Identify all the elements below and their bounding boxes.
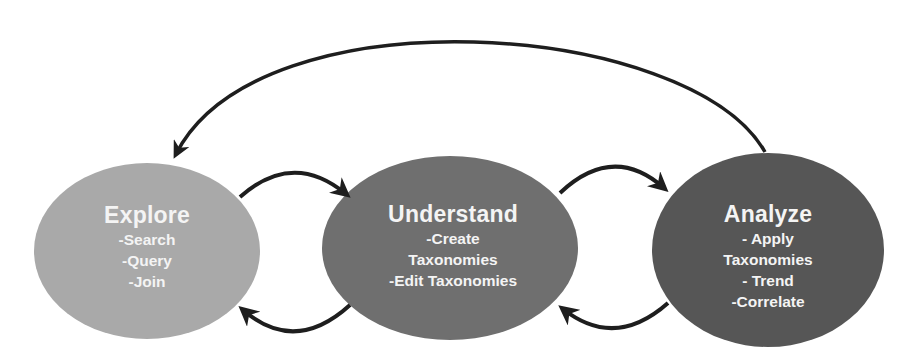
understand-node: Understand -Create Taxonomies -Edit Taxo… xyxy=(388,200,518,291)
understand-item-create: -Create xyxy=(388,228,518,249)
analyze-node: Analyze - Apply Taxonomies - Trend -Corr… xyxy=(723,200,812,312)
explore-item-join: -Join xyxy=(104,271,190,292)
understand-title: Understand xyxy=(388,200,518,228)
analyze-item-correlate: -Correlate xyxy=(723,291,812,312)
analyze-item-trend: - Trend xyxy=(723,270,812,291)
analyze-title: Analyze xyxy=(723,200,812,228)
diagram-canvas: Explore -Search -Query -Join Understand … xyxy=(0,0,918,356)
understand-item-taxonomies: Taxonomies xyxy=(388,249,518,270)
explore-item-search: -Search xyxy=(104,229,190,250)
explore-title: Explore xyxy=(104,201,190,229)
arrow-explore-to-understand xyxy=(240,173,346,197)
explore-node: Explore -Search -Query -Join xyxy=(104,201,190,292)
understand-item-edit-taxonomies: -Edit Taxonomies xyxy=(388,270,518,291)
explore-item-query: -Query xyxy=(104,250,190,271)
arrow-analyze-to-explore xyxy=(176,42,765,154)
analyze-item-taxonomies: Taxonomies xyxy=(723,249,812,270)
analyze-item-apply: - Apply xyxy=(723,228,812,249)
arrow-analyze-to-understand xyxy=(563,303,668,328)
arrow-understand-to-explore xyxy=(243,305,350,331)
arrow-understand-to-analyze xyxy=(560,167,664,193)
